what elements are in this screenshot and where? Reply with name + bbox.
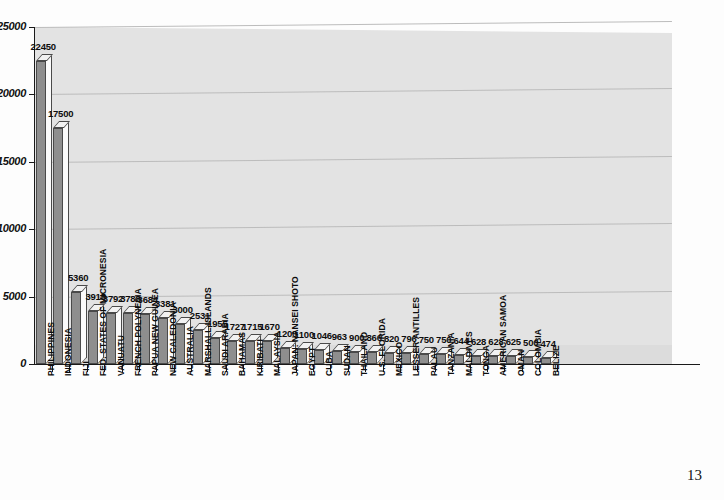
x-axis-category-label: MARSHALL ISLANDS — [203, 287, 213, 376]
x-axis-category-label: INDONESIA — [63, 328, 73, 376]
y-axis-tick-label: 10000 — [0, 222, 26, 234]
bar-front-face — [88, 311, 98, 364]
bar-front-face — [36, 61, 46, 364]
x-axis-category-label: LESSER ANTILLES — [411, 297, 421, 376]
x-axis-category-label: VANUATU — [116, 335, 126, 376]
x-axis-category-label: AMERICAN SAMOA — [498, 295, 508, 376]
y-axis-tick-mark — [29, 94, 35, 95]
bar-value-label: 5360 — [68, 272, 88, 283]
x-axis-category-label: TONGA — [481, 345, 491, 376]
x-axis-category-label: CUBA — [324, 351, 334, 376]
bar-value-label: 963 — [332, 331, 347, 342]
y-axis-tick-mark — [29, 364, 35, 365]
x-axis-category-label: EGYPT — [307, 347, 317, 376]
y-axis-tick-mark — [29, 27, 35, 28]
x-axis-category-label: KIRIBATI — [255, 339, 265, 376]
chart-page: 0500010000150002000025000 22450175005360… — [0, 0, 724, 500]
x-axis-category-label: SAUDI ARABIA — [220, 313, 230, 376]
bar — [36, 54, 54, 364]
y-axis-tick-mark — [29, 229, 35, 230]
x-axis-category-label: BAHAMAS — [237, 332, 247, 376]
x-axis-category-label: SUDAN — [342, 345, 352, 376]
x-axis-category-label: PALAU — [429, 347, 439, 376]
y-axis-tick-mark — [29, 162, 35, 163]
x-axis-category-label: MALDIVES — [464, 331, 474, 376]
y-axis-line — [34, 27, 35, 365]
x-axis-category-label: BELIZE — [551, 345, 561, 376]
x-axis-category-label: FED. STATES OF MICRONESIA — [98, 249, 108, 376]
x-axis-category-label: THAILAND — [359, 332, 369, 376]
x-axis-category-label: MALAYSIA — [272, 332, 282, 376]
gridline — [34, 21, 672, 28]
x-axis-category-label: OMAN — [516, 350, 526, 376]
bar-value-label: 1046 — [312, 330, 332, 341]
y-axis-tick-label: 25000 — [0, 20, 26, 32]
x-axis-category-label: U.S. FLORIDA — [377, 318, 387, 376]
y-axis-tick-label: 5000 — [0, 290, 26, 302]
page-number: 13 — [687, 467, 702, 484]
x-axis-category-label: PHILIPPINES — [46, 322, 56, 376]
y-axis-tick-label: 0 — [0, 357, 26, 369]
x-axis-category-label: MEXICO — [394, 342, 404, 376]
x-axis-category-label: FIJI — [81, 361, 91, 376]
y-axis-tick-mark — [29, 297, 35, 298]
bar-side-face — [46, 55, 52, 364]
x-axis-category-label: PAPUA NEW GUINEA — [150, 288, 160, 376]
x-axis-category-label: AUSTRALIA — [185, 326, 195, 376]
x-axis-category-label: COLOMBIA — [533, 329, 543, 376]
bar-value-label: 17500 — [48, 108, 73, 119]
y-axis-tick-label: 15000 — [0, 155, 26, 167]
x-axis-category-label: NEW CALEDONIA — [168, 302, 178, 376]
bar-value-label: 22450 — [31, 41, 56, 52]
x-axis-category-label: FRENCH POLYNESIA — [133, 288, 143, 376]
x-axis-category-label: TANZANIA — [446, 332, 456, 376]
x-axis-category-label: JAPAN: NANSEI SHOTO — [290, 276, 300, 376]
y-axis-tick-label: 20000 — [0, 87, 26, 99]
